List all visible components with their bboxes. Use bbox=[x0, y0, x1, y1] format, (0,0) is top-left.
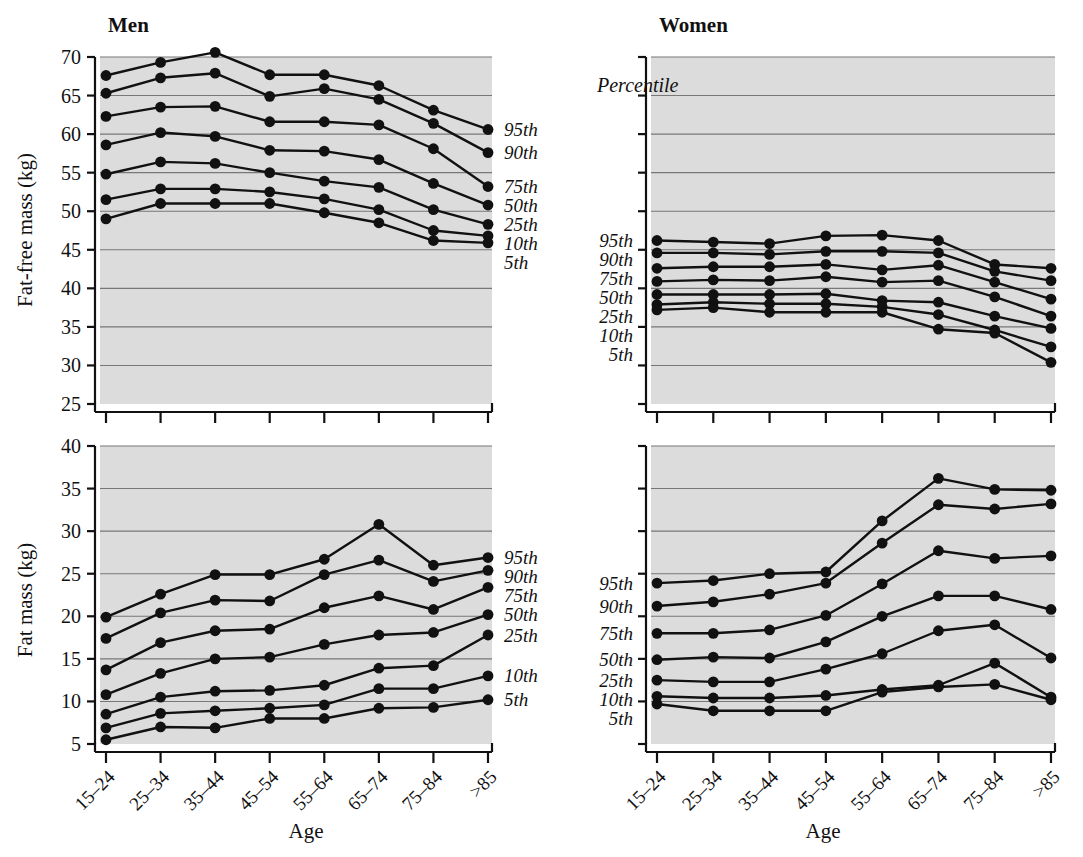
data-point-5th bbox=[933, 324, 944, 335]
data-point-10th bbox=[428, 683, 439, 694]
x-axis-women-fat-free-mass bbox=[646, 403, 1055, 423]
data-point-95th bbox=[101, 70, 112, 81]
data-point-75th bbox=[1046, 294, 1057, 305]
data-point-25th bbox=[933, 625, 944, 636]
data-point-5th bbox=[264, 713, 275, 724]
data-point-5th bbox=[820, 705, 831, 716]
data-point-10th bbox=[264, 187, 275, 198]
data-point-75th bbox=[877, 579, 888, 590]
data-point-90th bbox=[210, 68, 221, 79]
x-tick-label: 75–84 bbox=[398, 766, 447, 815]
data-point-5th bbox=[764, 307, 775, 318]
y-tick-label: 10 bbox=[61, 690, 81, 712]
data-point-25th bbox=[820, 664, 831, 675]
data-point-75th bbox=[764, 261, 775, 272]
data-point-10th bbox=[101, 722, 112, 733]
data-point-25th bbox=[652, 289, 663, 300]
percentile-label-25th: 25th bbox=[504, 625, 538, 646]
x-axis-men-fat-free-mass bbox=[95, 403, 492, 423]
percentile-label-50th: 50th bbox=[599, 287, 633, 308]
data-point-25th bbox=[101, 709, 112, 720]
data-point-10th bbox=[155, 183, 166, 194]
x-axis-title-women: Age bbox=[806, 819, 841, 843]
data-point-50th bbox=[373, 154, 384, 165]
data-point-50th bbox=[1046, 311, 1057, 322]
data-point-90th bbox=[1046, 275, 1057, 286]
data-point-25th bbox=[155, 692, 166, 703]
y-tick-label: 70 bbox=[61, 46, 81, 68]
data-point-75th bbox=[210, 625, 221, 636]
data-point-10th bbox=[210, 183, 221, 194]
data-point-75th bbox=[652, 263, 663, 274]
data-point-25th bbox=[764, 289, 775, 300]
data-point-10th bbox=[820, 690, 831, 701]
data-point-50th bbox=[764, 275, 775, 286]
data-point-75th bbox=[264, 624, 275, 635]
data-point-75th bbox=[210, 101, 221, 112]
data-point-95th bbox=[652, 578, 663, 589]
data-point-5th bbox=[652, 699, 663, 710]
data-point-95th bbox=[820, 567, 831, 578]
y-tick-label: 25 bbox=[61, 563, 81, 585]
percentile-label-10th: 10th bbox=[504, 233, 538, 254]
data-point-50th bbox=[428, 627, 439, 638]
x-axis-women-fat-mass bbox=[646, 743, 1055, 763]
data-point-5th bbox=[764, 705, 775, 716]
y-tick-label: 30 bbox=[61, 354, 81, 376]
data-point-50th bbox=[101, 689, 112, 700]
percentile-label-50th: 50th bbox=[504, 195, 538, 216]
data-point-50th bbox=[155, 127, 166, 138]
data-point-25th bbox=[1046, 323, 1057, 334]
data-point-75th bbox=[155, 637, 166, 648]
y-axis-title-fat-free-mass: Fat-free mass (kg) bbox=[13, 153, 37, 307]
x-tick-label: 45–54 bbox=[234, 766, 283, 815]
percentile-label-25th: 25th bbox=[599, 670, 633, 691]
data-point-95th bbox=[373, 80, 384, 91]
x-axis-men-fat-mass bbox=[95, 743, 492, 763]
data-point-95th bbox=[820, 231, 831, 242]
data-point-95th bbox=[877, 516, 888, 527]
y-axis-men-fat-mass bbox=[87, 446, 95, 744]
y-tick-label: 65 bbox=[61, 85, 81, 107]
data-point-90th bbox=[933, 247, 944, 258]
data-point-10th bbox=[264, 703, 275, 714]
data-point-75th bbox=[877, 264, 888, 275]
data-point-75th bbox=[989, 553, 1000, 564]
data-point-90th bbox=[652, 601, 663, 612]
data-point-95th bbox=[933, 473, 944, 484]
data-point-5th bbox=[483, 694, 494, 705]
data-point-90th bbox=[652, 247, 663, 258]
data-point-25th bbox=[877, 648, 888, 659]
data-point-95th bbox=[428, 105, 439, 116]
data-point-95th bbox=[264, 569, 275, 580]
data-point-5th bbox=[652, 305, 663, 316]
data-point-75th bbox=[319, 116, 330, 127]
data-point-95th bbox=[708, 575, 719, 586]
data-point-50th bbox=[933, 275, 944, 286]
x-tick-label: 45–54 bbox=[790, 766, 839, 815]
y-axis-title-fat-mass: Fat mass (kg) bbox=[13, 543, 37, 657]
data-point-25th bbox=[264, 167, 275, 178]
data-point-50th bbox=[101, 140, 112, 151]
percentile-label-5th: 5th bbox=[609, 344, 633, 365]
x-tick-label: 75–84 bbox=[959, 766, 1008, 815]
data-point-90th bbox=[708, 247, 719, 258]
data-point-90th bbox=[428, 118, 439, 129]
y-tick-labels-men-fat-mass: 510152025303540 bbox=[61, 435, 81, 755]
data-point-10th bbox=[483, 670, 494, 681]
data-point-95th bbox=[764, 238, 775, 249]
data-point-75th bbox=[428, 604, 439, 615]
percentile-label-25th: 25th bbox=[599, 306, 633, 327]
y-tick-label: 50 bbox=[61, 200, 81, 222]
data-point-95th bbox=[989, 484, 1000, 495]
y-tick-label: 35 bbox=[61, 316, 81, 338]
y-tick-label: 55 bbox=[61, 162, 81, 184]
y-tick-label: 20 bbox=[61, 605, 81, 627]
data-point-95th bbox=[319, 554, 330, 565]
data-point-10th bbox=[764, 693, 775, 704]
data-point-50th bbox=[708, 274, 719, 285]
data-point-90th bbox=[373, 555, 384, 566]
percentile-label-75th: 75th bbox=[504, 585, 538, 606]
data-point-5th bbox=[877, 307, 888, 318]
percentile-label-10th: 10th bbox=[504, 665, 538, 686]
